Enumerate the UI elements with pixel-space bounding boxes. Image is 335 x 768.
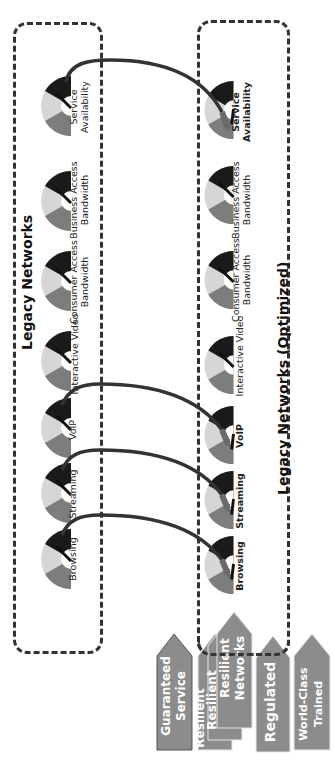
tag-line2: Service [174, 646, 189, 746]
tag-guaranteed-service-text: Guaranteed Service [159, 646, 191, 746]
tag-resilient-networks-text: Resilient Networks [218, 618, 250, 718]
optimized-box-bottom-edge [197, 640, 290, 656]
arrow-browsing [62, 515, 228, 574]
tag-world-class-trained: World-Class Trained [293, 632, 331, 752]
tag-line1: Regulated [263, 652, 278, 752]
tag-line2: Trained [311, 654, 326, 754]
tag-world-class-trained-text: World-Class Trained [296, 654, 328, 754]
tag-line1: Resilient [218, 618, 233, 718]
tag-resilient-networks: Resilient Networks [216, 610, 253, 730]
arrow-service-availability [66, 60, 228, 128]
tag-guaranteed-service: Guaranteed Service [155, 632, 194, 752]
arrow-streaming [62, 450, 228, 509]
arrow-voip [62, 384, 228, 444]
tag-regulated-text: Regulated [263, 652, 283, 752]
tag-line2: Networks [233, 618, 248, 718]
tag-line1: World-Class [296, 654, 311, 754]
tag-line1: Guaranteed [159, 646, 174, 746]
